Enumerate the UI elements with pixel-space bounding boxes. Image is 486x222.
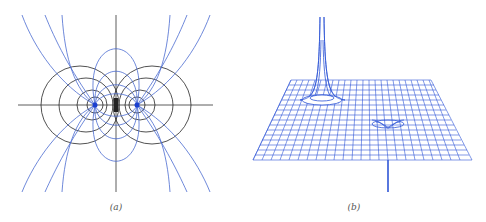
panel-a-dipole-diagram	[18, 15, 213, 192]
positive-charge	[93, 103, 98, 108]
panel-a-label: (a)	[110, 202, 122, 212]
panel-b-potential-surface	[253, 17, 472, 192]
figure-canvas	[0, 0, 486, 222]
panel-b-label: (b)	[348, 202, 361, 212]
positive-spike	[300, 17, 345, 105]
negative-charge	[135, 103, 140, 108]
negative-well	[372, 120, 404, 128]
dipole-center-marker	[114, 98, 118, 112]
